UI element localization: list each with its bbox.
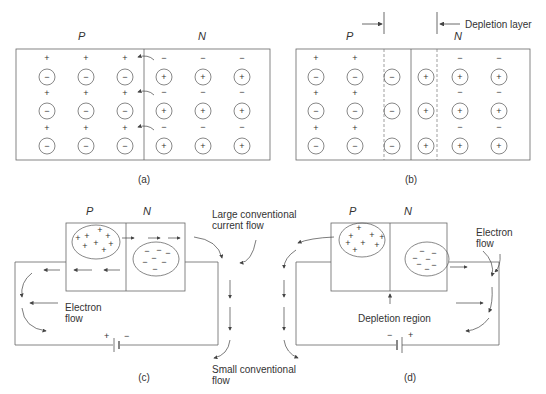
- svg-text:−: −: [457, 53, 462, 63]
- svg-text:−: −: [424, 264, 429, 274]
- panel-d-depletion-region-label: Depletion region: [358, 313, 431, 324]
- svg-text:−: −: [431, 248, 436, 258]
- svg-text:+: +: [93, 238, 98, 248]
- panel-c-small-flow-label-2: flow: [212, 375, 231, 386]
- panel-d-caption: (d): [404, 372, 416, 383]
- svg-text:+: +: [345, 238, 350, 248]
- panel-c-small-flow-label-1: Small conventional: [212, 364, 296, 375]
- svg-text:+: +: [161, 72, 166, 82]
- panel-a-p-side: +++ − − − +++ − − − +++ − − −: [39, 53, 133, 154]
- svg-text:−: −: [313, 141, 318, 151]
- svg-text:+: +: [83, 53, 88, 63]
- svg-text:−: −: [239, 122, 244, 132]
- svg-text:−: −: [496, 87, 501, 97]
- svg-text:+: +: [352, 245, 357, 255]
- panel-c: P N ++++ ++++ −−− −−−− + −: [15, 205, 297, 386]
- svg-text:+: +: [200, 141, 205, 151]
- svg-text:+: +: [496, 106, 501, 116]
- panel-d-electron-flow-label-2: flow: [476, 238, 495, 249]
- svg-text:−: −: [122, 106, 127, 116]
- svg-text:−: −: [457, 122, 462, 132]
- panel-b-depletion-label: Depletion layer: [465, 19, 532, 30]
- svg-text:+: +: [239, 106, 244, 116]
- panel-b-caption: (b): [405, 174, 417, 185]
- svg-text:+: +: [352, 123, 357, 133]
- svg-text:+: +: [44, 123, 49, 133]
- svg-text:−: −: [83, 106, 88, 116]
- panel-a: P N +++ − − − +++ − − − +++ − − − −−− + …: [16, 30, 270, 185]
- svg-text:+: +: [44, 88, 49, 98]
- panel-c-battery-plus: +: [104, 331, 109, 341]
- svg-text:+: +: [101, 245, 106, 255]
- svg-text:+: +: [313, 88, 318, 98]
- svg-text:−: −: [44, 106, 49, 116]
- svg-text:−: −: [151, 253, 156, 263]
- panel-d-circuit-wire: [296, 262, 499, 345]
- svg-text:−: −: [389, 106, 394, 116]
- panel-b-p-label: P: [346, 30, 354, 42]
- svg-text:+: +: [313, 123, 318, 133]
- svg-text:−: −: [419, 246, 424, 256]
- svg-text:−: −: [161, 87, 166, 97]
- svg-text:−: −: [352, 106, 357, 116]
- panel-d-battery-plus: +: [408, 330, 413, 340]
- svg-text:−: −: [161, 53, 166, 63]
- panel-b: P N Depletion layer ++ − − ++ − − ++ − −…: [296, 12, 532, 185]
- svg-text:+: +: [108, 239, 113, 249]
- svg-text:+: +: [360, 238, 365, 248]
- panel-a-caption: (a): [138, 174, 150, 185]
- svg-text:+: +: [352, 53, 357, 63]
- svg-text:+: +: [122, 123, 127, 133]
- svg-text:+: +: [82, 241, 87, 251]
- panel-b-depletion-markers: [362, 12, 460, 34]
- svg-text:+: +: [313, 53, 318, 63]
- svg-text:−: −: [416, 259, 421, 269]
- svg-text:+: +: [457, 72, 462, 82]
- svg-text:+: +: [161, 106, 166, 116]
- svg-text:−: −: [239, 53, 244, 63]
- panel-a-p-label: P: [78, 30, 86, 42]
- panel-b-ions: ++ − − ++ − − ++ − − − − − + + + −− + + …: [308, 53, 507, 154]
- svg-text:−: −: [122, 141, 127, 151]
- svg-text:−: −: [389, 141, 394, 151]
- panel-d: P N ++++ ++++ −−− −−−− − +: [284, 205, 513, 383]
- panel-c-flow-arrows: [22, 237, 256, 358]
- svg-text:+: +: [496, 141, 501, 151]
- panel-c-p-label: P: [86, 205, 94, 217]
- svg-text:+: +: [374, 240, 379, 250]
- svg-text:+: +: [122, 53, 127, 63]
- panel-d-p-label: P: [349, 205, 357, 217]
- svg-text:−: −: [200, 53, 205, 63]
- svg-text:+: +: [356, 223, 361, 233]
- svg-text:+: +: [75, 233, 80, 243]
- svg-text:−: −: [156, 245, 161, 255]
- panel-c-circuit-wire: [15, 262, 218, 345]
- panel-b-n-label: N: [454, 30, 462, 42]
- svg-text:−: −: [83, 72, 88, 82]
- panel-c-large-flow-label-1: Large conventional: [212, 209, 297, 220]
- svg-text:+: +: [457, 106, 462, 116]
- panel-a-n-label: N: [198, 30, 206, 42]
- svg-text:+: +: [496, 72, 501, 82]
- svg-text:+: +: [122, 88, 127, 98]
- svg-text:+: +: [200, 106, 205, 116]
- svg-text:−: −: [425, 254, 430, 264]
- svg-text:+: +: [84, 231, 89, 241]
- svg-text:+: +: [423, 72, 428, 82]
- panel-d-battery: [397, 337, 402, 353]
- svg-text:−: −: [431, 260, 436, 270]
- svg-text:+: +: [239, 72, 244, 82]
- panel-c-battery-minus: −: [124, 331, 129, 341]
- panel-c-electrons: −−− −−−−: [142, 245, 170, 274]
- svg-text:+: +: [44, 53, 49, 63]
- svg-text:−: −: [200, 122, 205, 132]
- panel-c-holes: ++++ ++++: [75, 225, 113, 255]
- panel-c-large-flow-label-2: current flow: [212, 220, 264, 231]
- svg-text:−: −: [144, 246, 149, 256]
- svg-text:−: −: [352, 72, 357, 82]
- svg-text:−: −: [496, 122, 501, 132]
- panel-a-n-side: −−− + + + −−− + + + −−− + + +: [156, 53, 250, 154]
- svg-text:−: −: [239, 87, 244, 97]
- svg-text:+: +: [239, 141, 244, 151]
- svg-text:+: +: [457, 141, 462, 151]
